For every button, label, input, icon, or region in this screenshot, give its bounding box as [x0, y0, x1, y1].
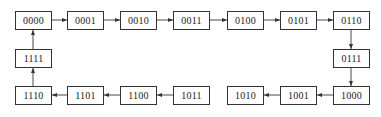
state-label: 0101 — [288, 16, 309, 26]
state-label: 1110 — [23, 91, 43, 101]
state-box-0001: 0001 — [67, 11, 104, 30]
state-box-0100: 0100 — [227, 11, 264, 30]
state-label: 1000 — [341, 91, 362, 101]
state-label: 0011 — [181, 16, 201, 26]
state-box-1101: 1101 — [67, 86, 104, 105]
state-box-1010: 1010 — [227, 86, 264, 105]
state-label: 1010 — [235, 91, 256, 101]
state-label: 1001 — [288, 91, 309, 101]
state-box-0010: 0010 — [120, 11, 157, 30]
state-label: 0111 — [341, 54, 361, 64]
state-box-0011: 0011 — [173, 11, 210, 30]
state-label: 0001 — [75, 16, 96, 26]
state-box-1011: 1011 — [173, 86, 210, 105]
state-label: 1011 — [181, 91, 201, 101]
state-label: 0110 — [341, 16, 361, 26]
state-label: 0000 — [23, 16, 44, 26]
state-box-1001: 1001 — [280, 86, 317, 105]
state-box-1000: 1000 — [333, 86, 370, 105]
state-box-0000: 0000 — [15, 11, 52, 30]
state-box-1100: 1100 — [120, 86, 157, 105]
state-label: 1111 — [24, 54, 44, 64]
state-box-1111: 1111 — [15, 49, 52, 68]
state-box-0111: 0111 — [333, 49, 370, 68]
state-label: 0010 — [128, 16, 149, 26]
state-label: 1100 — [128, 91, 148, 101]
state-box-1110: 1110 — [15, 86, 52, 105]
state-label: 0100 — [235, 16, 256, 26]
state-transition-diagram: 0000000100100011010001010110011110001001… — [0, 0, 381, 117]
state-box-0101: 0101 — [280, 11, 317, 30]
state-label: 1101 — [75, 91, 95, 101]
state-box-0110: 0110 — [333, 11, 370, 30]
